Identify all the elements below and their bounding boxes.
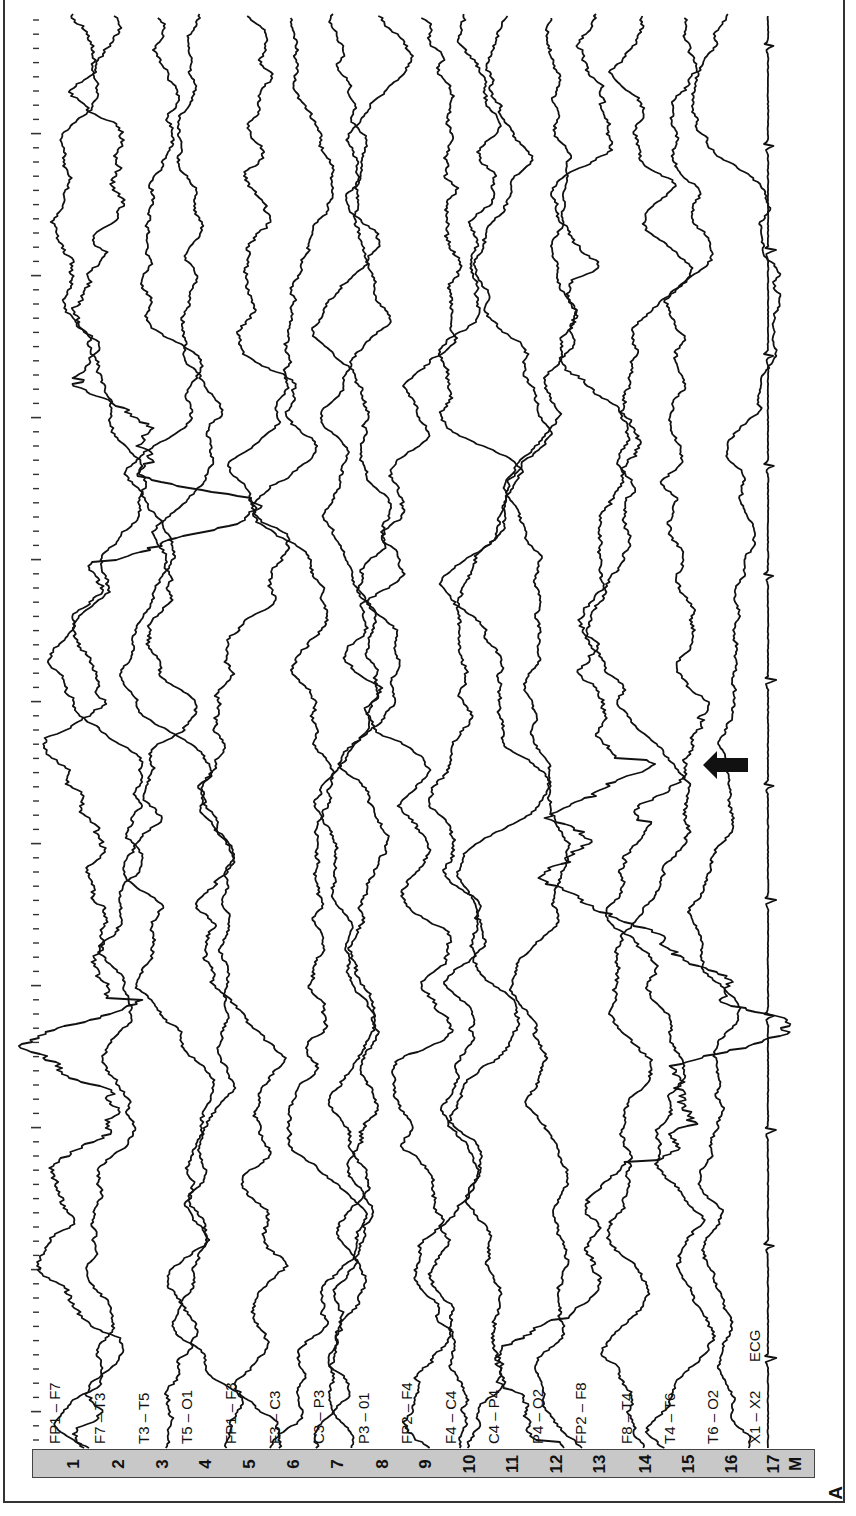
channel-number-16: 16	[717, 1450, 747, 1477]
channel-label-text: F3 – C3	[266, 1391, 283, 1444]
channel-number-text: 8	[373, 1459, 393, 1468]
eeg-trace-ch16	[688, 14, 781, 1448]
channel-number-11: 11	[498, 1450, 528, 1477]
channel-number-15: 15	[674, 1450, 704, 1477]
channel-number-5: 5	[235, 1450, 265, 1477]
channel-label-text: FP1 – F3	[222, 1382, 239, 1444]
channel-number-text: 14	[636, 1454, 656, 1473]
eeg-trace-ch6	[228, 18, 367, 1448]
channel-number-6: 6	[279, 1450, 309, 1477]
eeg-trace-ch5	[196, 16, 317, 1448]
channel-label-text: FP1 – F7	[46, 1382, 63, 1444]
channel-label-text: T3 – T5	[135, 1393, 152, 1444]
channel-number-14: 14	[631, 1450, 661, 1477]
channel-label-text: P4 – O2	[529, 1389, 546, 1444]
channel-label-text: T4 – T6	[661, 1393, 678, 1444]
panel-letter-text: A	[825, 1486, 847, 1500]
eeg-trace-ch15	[606, 18, 715, 1448]
panel-letter: A	[826, 1482, 846, 1504]
eeg-trace-ch1	[19, 14, 262, 1448]
channel-label-text: F7 – T3	[91, 1393, 108, 1444]
channel-label-text: P3 – 01	[355, 1392, 372, 1444]
channel-label-text: F4 – C4	[442, 1391, 459, 1444]
channel-number-text: 15	[679, 1454, 699, 1473]
channel-number-8: 8	[368, 1450, 398, 1477]
eeg-trace-ch10	[414, 14, 523, 1448]
channel-number-12: 12	[542, 1450, 572, 1477]
channel-number-7: 7	[323, 1450, 353, 1477]
channel-number-2: 2	[104, 1450, 134, 1477]
channel-label-text: T5 – O1	[178, 1390, 195, 1444]
channel-label-text: C4 – P4	[485, 1390, 502, 1444]
channel-number-text: 3	[153, 1459, 173, 1468]
channel-number-text: 1	[64, 1459, 84, 1468]
channel-number-text: 13	[590, 1454, 610, 1473]
channel-number-text: 11	[503, 1455, 523, 1473]
channel-number-4: 4	[191, 1450, 221, 1477]
channel-number-13: 13	[585, 1450, 615, 1477]
channel-number-text: 4	[196, 1459, 216, 1468]
channel-label-text: FP2 – F8	[572, 1382, 589, 1444]
channel-number-bar: 1234567891011121314151617M	[32, 1449, 815, 1478]
channel-number-10: 10	[455, 1450, 485, 1477]
channel-label-text: X1 – X2	[746, 1391, 763, 1444]
channel-label-text: T6 – O2	[704, 1390, 721, 1444]
eeg-trace-ch8	[312, 16, 413, 1448]
channel-label-text: C3 – P3	[310, 1390, 327, 1444]
montage-marker: M	[781, 1450, 811, 1477]
channel-number-text: 10	[460, 1454, 480, 1473]
eeg-trace-ch9	[344, 18, 462, 1448]
channel-number-1: 1	[59, 1450, 89, 1477]
eeg-trace-ch13	[495, 14, 790, 1448]
channel-number-3: 3	[148, 1450, 178, 1477]
channel-number-text: 7	[328, 1459, 348, 1468]
ecg-trace	[764, 16, 776, 1448]
channel-number-9: 9	[411, 1450, 441, 1477]
channel-label-text: F8 – T4	[618, 1393, 635, 1444]
channel-number-text: 5	[240, 1459, 260, 1468]
channel-number-text: 2	[109, 1459, 129, 1468]
channel-number-text: 6	[284, 1459, 304, 1468]
eeg-trace-ch14	[585, 16, 692, 1448]
eeg-traces	[0, 0, 856, 1516]
channel-number-text: 9	[416, 1459, 436, 1468]
eeg-trace-ch4	[120, 14, 243, 1448]
channel-label-text: FP2 – F4	[398, 1382, 415, 1444]
channel-number-text: 16	[722, 1454, 742, 1473]
eeg-trace-ch11	[440, 16, 552, 1448]
channel-number-text: 12	[547, 1454, 567, 1473]
